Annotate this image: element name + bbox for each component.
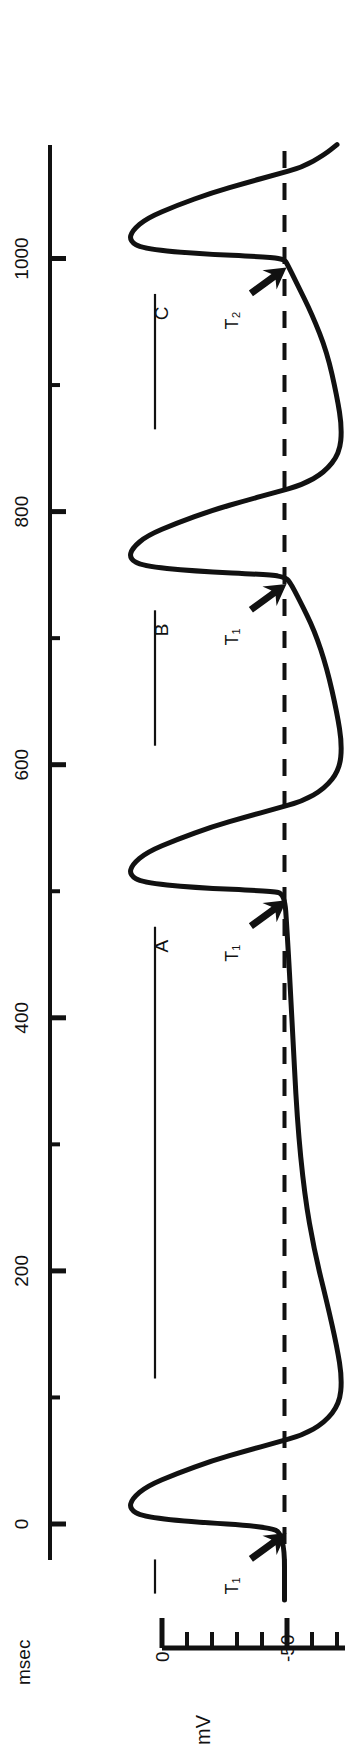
figure-canvas xyxy=(0,0,354,1755)
